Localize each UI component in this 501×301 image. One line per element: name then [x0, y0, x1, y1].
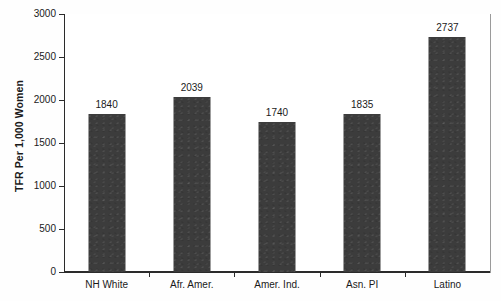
x-axis-labels: NH WhiteAfr. Amer.Amer. Ind.Asn. PILatin…: [64, 280, 490, 298]
bar[interactable]: [429, 37, 466, 272]
bar-group: 1740: [234, 14, 319, 272]
x-axis-category-label: Asn. PI: [346, 280, 378, 290]
y-axis-tick-label: 0: [12, 267, 56, 277]
x-axis-category-label: Amer. Ind.: [254, 280, 300, 290]
bars-layer: 18402039174018352737: [64, 14, 490, 272]
bar-value-label: 2039: [181, 83, 203, 93]
y-axis-tick-label: 1500: [12, 138, 56, 148]
bar[interactable]: [344, 114, 381, 272]
y-axis-tick-label: 3000: [12, 9, 56, 19]
bar-group: 2039: [149, 14, 234, 272]
bar[interactable]: [173, 97, 210, 272]
y-axis-tick-label: 1000: [12, 181, 56, 191]
bar-value-label: 1840: [95, 100, 117, 110]
bar-value-label: 1740: [266, 108, 288, 118]
bar-group: 1840: [64, 14, 149, 272]
x-axis-category-label: NH White: [85, 280, 128, 290]
y-axis-tick: [59, 272, 64, 273]
x-axis-tick: [234, 272, 235, 277]
x-axis-category-label: Afr. Amer.: [170, 280, 213, 290]
y-axis-tick-label: 2500: [12, 52, 56, 62]
y-axis-tick-label: 500: [12, 224, 56, 234]
bar[interactable]: [258, 122, 295, 272]
bar-group: 2737: [405, 14, 490, 272]
x-axis-tick: [320, 272, 321, 277]
bar-chart: TFR Per 1,000 Women 05001000150020002500…: [0, 0, 501, 301]
x-axis-category-label: Latino: [434, 280, 461, 290]
bar-group: 1835: [320, 14, 405, 272]
x-axis-tick: [149, 272, 150, 277]
bar-value-label: 2737: [436, 23, 458, 33]
y-axis-tick-label: 2000: [12, 95, 56, 105]
bar[interactable]: [88, 114, 125, 272]
bar-value-label: 1835: [351, 100, 373, 110]
x-axis-tick: [405, 272, 406, 277]
y-axis-tick-labels: 050010001500200025003000: [8, 0, 56, 301]
